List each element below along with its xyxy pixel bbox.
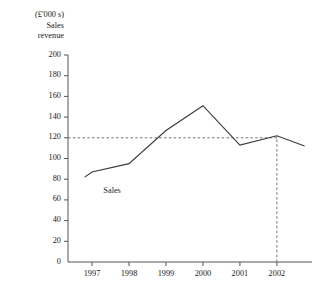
line-chart: (£'000 s)Salesrevenue 020406080100120140… [0, 0, 319, 290]
plot-area [0, 0, 319, 290]
data-line-sales [85, 106, 305, 177]
